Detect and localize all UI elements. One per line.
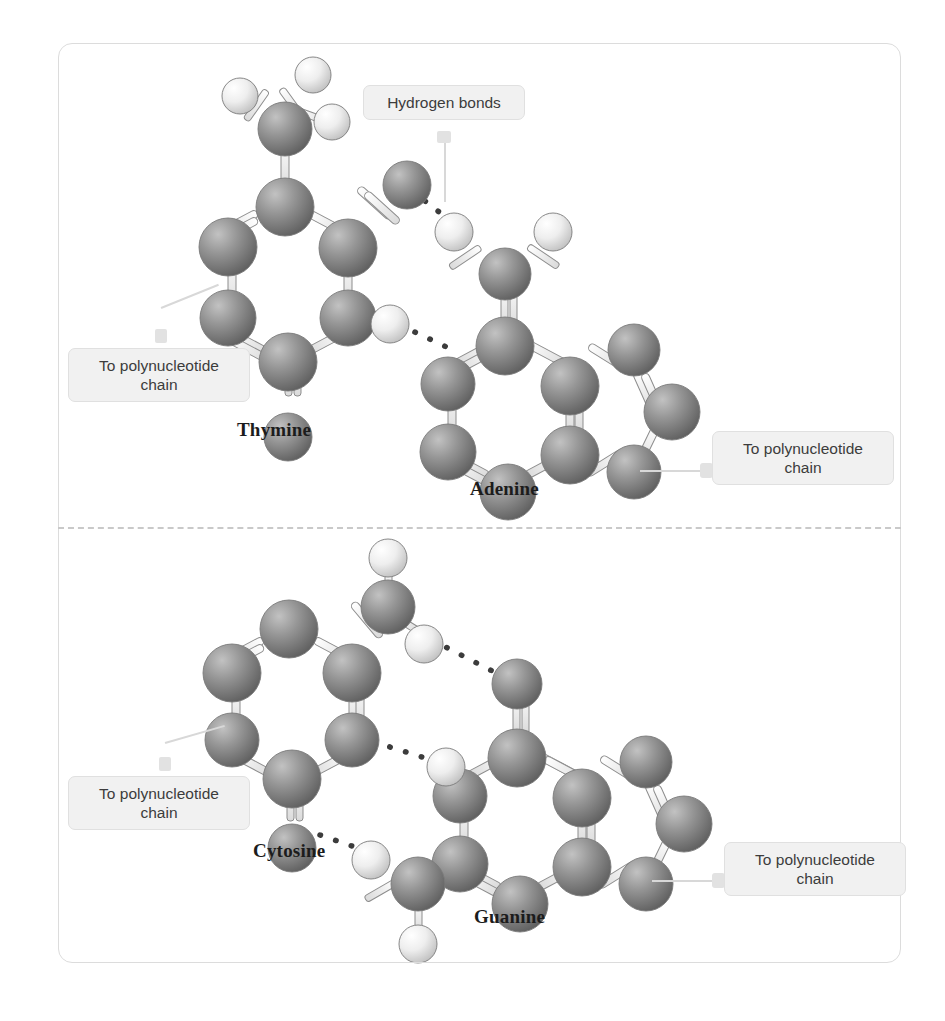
- molecule-label-thymine: Thymine: [237, 419, 311, 441]
- hydrogen-bonds-nub: [437, 131, 451, 143]
- thymine-chain-nub: [155, 329, 167, 343]
- dna-base-pairing-figure: Hydrogen bonds To polynucleotide chain T…: [0, 0, 945, 1021]
- guanine-chain-leader: [652, 880, 718, 882]
- molecule-label-guanine: Guanine: [474, 906, 545, 928]
- callout-guanine-polynucleotide-chain[interactable]: To polynucleotide chain: [724, 842, 906, 896]
- molecule-label-cytosine: Cytosine: [253, 840, 325, 862]
- callout-adenine-polynucleotide-chain[interactable]: To polynucleotide chain: [712, 431, 894, 485]
- callout-thymine-polynucleotide-chain[interactable]: To polynucleotide chain: [68, 348, 250, 402]
- panel-divider: [58, 527, 901, 529]
- hydrogen-bonds-leader: [444, 140, 446, 202]
- adenine-chain-leader: [640, 470, 706, 472]
- callout-hydrogen-bonds[interactable]: Hydrogen bonds: [363, 85, 525, 120]
- cytosine-chain-nub: [159, 757, 171, 771]
- callout-cytosine-polynucleotide-chain[interactable]: To polynucleotide chain: [68, 776, 250, 830]
- molecule-label-adenine: Adenine: [470, 478, 539, 500]
